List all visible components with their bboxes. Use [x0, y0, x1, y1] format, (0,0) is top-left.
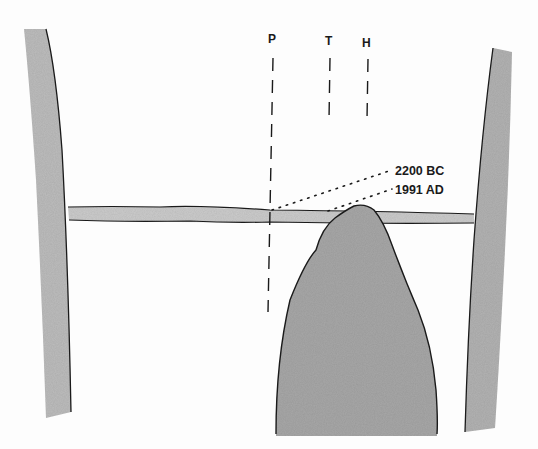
horizon-lintel: [68, 206, 474, 223]
annotation-lines: [272, 170, 392, 211]
right-upright-stone: [465, 48, 512, 432]
sight-line-p-label: P: [268, 32, 276, 46]
annotation-2200bc: 2200 BC: [395, 164, 444, 178]
left-upright-stone: [24, 29, 71, 418]
sight-line-t: T: [325, 34, 333, 120]
stone-alignment-diagram: P T H 2200 BC 1991 AD: [0, 0, 538, 449]
central-heel-stone: [276, 205, 437, 436]
line-2200bc: [272, 170, 392, 210]
sight-line-h: H: [362, 36, 371, 120]
sight-line-t-label: T: [325, 34, 333, 48]
sight-line-h-label: H: [362, 36, 371, 50]
sight-line-p: P: [268, 32, 276, 312]
annotation-1991ad: 1991 AD: [395, 183, 444, 197]
